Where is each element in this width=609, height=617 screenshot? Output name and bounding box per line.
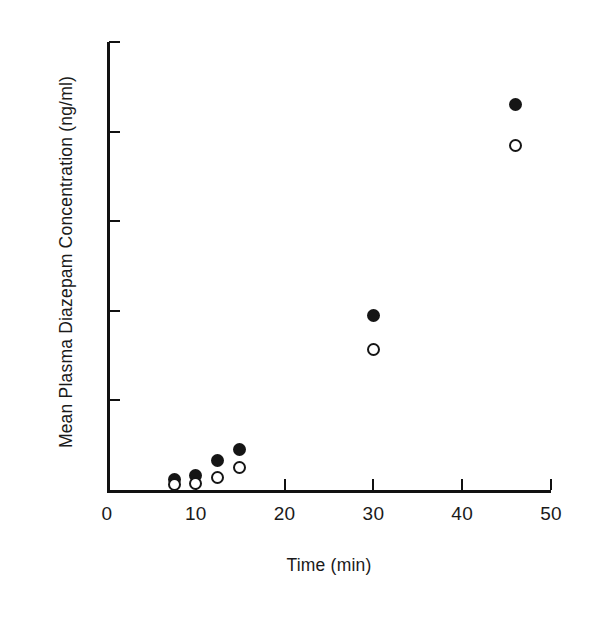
x-tick-30	[372, 479, 374, 490]
data-point-open-circle	[189, 477, 202, 490]
data-point-filled-circle	[211, 454, 224, 467]
y-axis-title: Mean Plasma Diazepam Concentration (ng/m…	[46, 12, 86, 512]
data-point-filled-circle	[367, 309, 380, 322]
y-tick-500	[109, 41, 120, 43]
data-point-filled-circle	[509, 98, 522, 111]
y-tick-300	[109, 220, 120, 222]
x-tick-50	[550, 479, 552, 490]
data-point-open-circle	[168, 478, 181, 491]
x-tick-20	[284, 479, 286, 490]
y-tick-200	[109, 310, 120, 312]
plot-area: 100200300400500 01020304050	[107, 42, 551, 492]
data-point-open-circle	[233, 461, 246, 474]
y-tick-400	[109, 131, 120, 133]
y-axis-line	[107, 42, 110, 492]
scatter-plot-figure: Mean Plasma Diazepam Concentration (ng/m…	[0, 0, 609, 617]
x-tick-label-10: 10	[166, 504, 226, 523]
x-tick-label-0: 0	[77, 504, 137, 523]
x-tick-40	[461, 479, 463, 490]
y-tick-100	[109, 399, 120, 401]
x-tick-label-20: 20	[255, 504, 315, 523]
x-axis-title: Time (min)	[107, 555, 551, 576]
data-point-open-circle	[509, 139, 522, 152]
data-point-filled-circle	[233, 443, 246, 456]
x-tick-label-30: 30	[343, 504, 403, 523]
x-tick-label-50: 50	[521, 504, 581, 523]
data-point-open-circle	[367, 343, 380, 356]
x-tick-label-40: 40	[432, 504, 492, 523]
data-point-open-circle	[211, 471, 224, 484]
